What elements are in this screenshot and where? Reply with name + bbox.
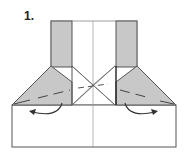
right-vertical-flap xyxy=(116,21,137,67)
bottom-base-rectangle xyxy=(12,105,176,147)
left-vertical-flap xyxy=(51,21,72,67)
origami-diagram xyxy=(0,0,186,156)
